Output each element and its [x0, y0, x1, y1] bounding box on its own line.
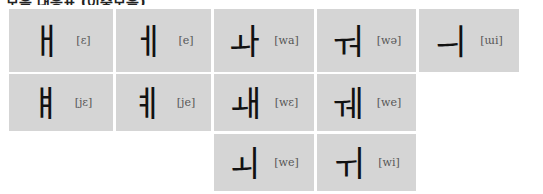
- hangul-vowel: ㅔ: [133, 23, 164, 59]
- hangul-vowel: ㅐ: [31, 23, 62, 59]
- ipa-label: [ɛ]: [76, 34, 90, 47]
- vowel-cell: ㅙ [wɛ]: [214, 74, 314, 131]
- hangul-vowel: ㅒ: [30, 85, 61, 121]
- vowel-cell: ㅢ [ɯi]: [419, 9, 519, 72]
- ipa-label: [ɯi]: [480, 34, 503, 47]
- vowel-cell: ㅔ [e]: [116, 9, 211, 72]
- vowel-cell: ㅚ [we]: [214, 134, 314, 191]
- ipa-label: [jɛ]: [75, 96, 93, 109]
- ipa-label: [wə]: [377, 34, 402, 47]
- hangul-vowel: ㅞ: [332, 85, 363, 121]
- ipa-label: [wi]: [378, 156, 400, 169]
- hangul-vowel: ㅙ: [230, 85, 261, 121]
- ipa-label: [we]: [377, 96, 402, 109]
- hangul-vowel: ㅖ: [132, 85, 163, 121]
- vowel-cell: ㅝ [wə]: [317, 9, 416, 72]
- vowel-cell: ㅖ [je]: [116, 74, 211, 131]
- ipa-label: [wɛ]: [275, 96, 299, 109]
- hangul-vowel: ㅚ: [229, 145, 260, 181]
- hangul-vowel: ㅢ: [435, 23, 466, 59]
- ipa-label: [wa]: [274, 34, 299, 47]
- hangul-vowel: ㅘ: [229, 23, 260, 59]
- vowel-cell: ㅞ [we]: [317, 74, 416, 131]
- vowel-cell: ㅐ [ɛ]: [9, 9, 113, 72]
- section-title: 모음 대응표 (이중모음): [6, 0, 146, 5]
- hangul-vowel: ㅟ: [333, 145, 364, 181]
- vowel-cell: ㅘ [wa]: [214, 9, 314, 72]
- hangul-vowel: ㅝ: [332, 23, 363, 59]
- ipa-label: [e]: [178, 34, 193, 47]
- vowel-cell: ㅟ [wi]: [317, 134, 416, 191]
- vowel-cell: ㅒ [jɛ]: [9, 74, 113, 131]
- ipa-label: [je]: [177, 96, 196, 109]
- ipa-label: [we]: [274, 156, 299, 169]
